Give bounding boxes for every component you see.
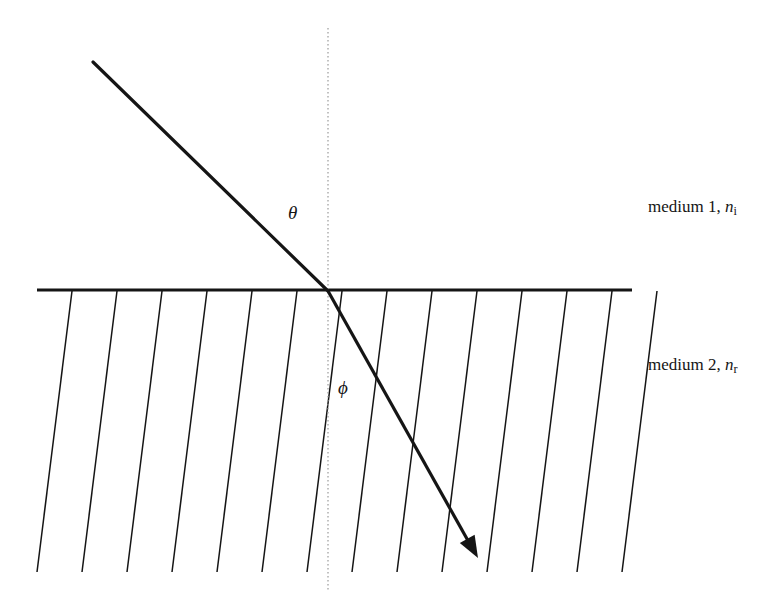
angle-of-refraction-label: ϕ [338, 378, 348, 397]
hatch-line [352, 291, 387, 572]
medium-1-label: medium 1, ni [648, 198, 737, 218]
hatch-line [622, 291, 657, 572]
hatch-line [217, 291, 252, 572]
refractive-index-subscript-2: r [733, 362, 737, 376]
refractive-index-subscript-1: i [733, 204, 736, 218]
medium-1-text: medium 1, [648, 197, 725, 216]
hatch-line [262, 291, 297, 572]
refracted-ray [328, 291, 471, 546]
hatch-line [37, 291, 72, 572]
medium-2-text: medium 2, [648, 355, 725, 374]
hatch-lines-group [37, 291, 657, 572]
arrowhead-icon [460, 535, 478, 558]
hatch-line [487, 291, 522, 572]
incident-ray [93, 62, 328, 291]
medium-2-label: medium 2, nr [648, 356, 738, 376]
hatch-line [577, 291, 612, 572]
hatch-line [172, 291, 207, 572]
hatch-line [82, 291, 117, 572]
hatch-line [307, 291, 342, 572]
refraction-diagram-figure: medium 1, ni medium 2, nr θ ϕ [0, 0, 778, 614]
hatch-line [127, 291, 162, 572]
hatch-line [532, 291, 567, 572]
angle-of-incidence-label: θ [288, 203, 297, 222]
hatch-line [397, 291, 432, 572]
hatch-line [442, 291, 477, 572]
diagram-canvas [0, 0, 778, 614]
